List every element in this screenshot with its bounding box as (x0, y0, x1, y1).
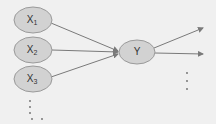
output-ellipsis-dots (186, 72, 188, 90)
label-x1-text: X (27, 14, 34, 25)
label-x2-subscript: 2 (33, 49, 37, 56)
label-y-text: Y (134, 46, 141, 57)
edge-x3-y (51, 54, 118, 77)
label-x1: X1 (27, 15, 38, 26)
label-x2-text: X (27, 44, 34, 55)
edge-y-out-1 (154, 28, 203, 48)
label-x1-subscript: 1 (33, 19, 37, 26)
edge-y-out-2 (155, 53, 203, 54)
label-x3-text: X (27, 73, 34, 84)
label-x3-subscript: 3 (33, 78, 37, 85)
edge-x2-y (52, 50, 118, 52)
diagram-canvas: X1 X2 X3 Y (0, 0, 216, 124)
label-x2: X2 (27, 45, 38, 56)
edge-x1-y (51, 23, 118, 51)
label-x3: X3 (27, 74, 38, 85)
label-y: Y (134, 47, 141, 57)
input-ellipsis-dots (29, 100, 43, 120)
